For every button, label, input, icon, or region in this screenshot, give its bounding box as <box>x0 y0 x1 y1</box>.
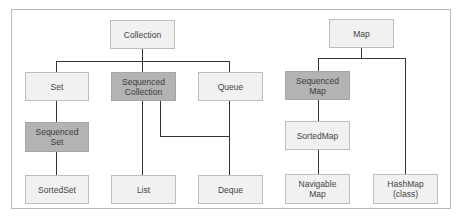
connector <box>318 58 406 59</box>
node-deque: Deque <box>198 175 263 204</box>
node-list: List <box>111 175 176 204</box>
node-queue: Queue <box>198 72 263 101</box>
connector <box>56 61 57 72</box>
node-sorted-map: SortedMap <box>285 121 350 150</box>
node-hashmap: HashMap (class) <box>373 174 438 204</box>
node-sequenced-set: Sequenced Set <box>25 122 89 152</box>
connector <box>318 58 319 71</box>
connector <box>56 152 57 175</box>
node-sequenced-collection: Sequenced Collection <box>111 72 176 101</box>
node-map: Map <box>329 19 394 48</box>
connector <box>142 61 143 72</box>
node-sequenced-map: Sequenced Map <box>285 71 350 100</box>
connector <box>56 101 57 122</box>
node-collection: Collection <box>110 20 175 49</box>
connector <box>318 100 319 122</box>
node-set: Set <box>25 72 89 101</box>
connector <box>318 150 319 175</box>
connector <box>229 101 230 175</box>
connector <box>405 58 406 175</box>
connector <box>229 61 230 72</box>
connector <box>56 61 230 62</box>
connector <box>142 49 143 61</box>
connector <box>160 136 230 137</box>
connector <box>142 101 143 175</box>
connector <box>160 101 161 137</box>
node-navigable-map: Navigable Map <box>285 174 350 204</box>
node-sorted-set: SortedSet <box>25 175 89 204</box>
